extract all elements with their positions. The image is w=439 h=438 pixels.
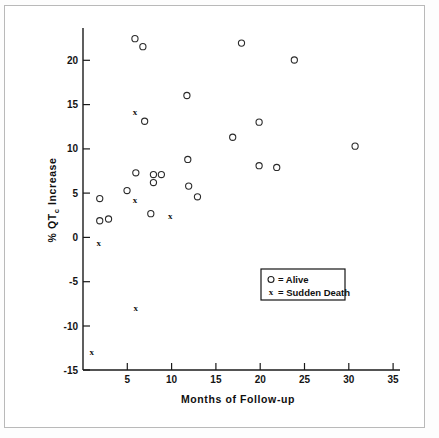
y-tick-label-minus10: -10 <box>64 321 79 332</box>
x-axis-title: Months of Follow-up <box>181 393 295 405</box>
data-point-sudden-death: x <box>90 347 95 357</box>
y-tick-label-minus5: -5 <box>69 276 78 287</box>
data-point-alive <box>352 143 358 149</box>
figure-root: 20 15 10 5 0 -5 -10 -15 5 10 15 20 25 30 <box>0 0 439 438</box>
data-point-alive <box>256 163 262 169</box>
x-tick-label-10: 10 <box>166 374 178 385</box>
y-axis-title-tail: Increase <box>46 158 58 209</box>
y-tick-label-5: 5 <box>72 188 78 199</box>
x-axis-tick-labels: 5 10 15 20 25 30 35 <box>125 374 400 385</box>
data-point-alive <box>97 218 103 224</box>
data-point-alive <box>186 183 192 189</box>
data-point-alive <box>274 164 280 170</box>
data-points-layer: xxxxxx <box>90 36 359 358</box>
data-point-alive <box>148 211 154 217</box>
data-point-sudden-death: x <box>134 303 139 313</box>
scatter-plot: 20 15 10 5 0 -5 -10 -15 5 10 15 20 25 30 <box>0 0 439 438</box>
data-point-sudden-death: x <box>97 238 102 248</box>
y-tick-label-10: 10 <box>67 143 79 154</box>
data-point-alive <box>140 44 146 50</box>
legend-label-sudden-death: = Sudden Death <box>278 287 350 298</box>
y-tick-label-15: 15 <box>67 99 79 110</box>
data-point-alive <box>142 118 148 124</box>
data-point-alive <box>124 187 130 193</box>
x-tick-label-20: 20 <box>255 374 267 385</box>
data-point-alive <box>230 134 236 140</box>
data-point-sudden-death: x <box>168 211 173 221</box>
data-point-sudden-death: x <box>133 107 138 117</box>
data-point-alive <box>194 194 200 200</box>
legend-label-alive: = Alive <box>278 274 309 285</box>
y-tick-label-minus15: -15 <box>64 365 79 376</box>
x-tick-label-30: 30 <box>343 374 355 385</box>
y-axis-ticks <box>83 60 90 370</box>
data-point-alive <box>158 171 164 177</box>
y-tick-label-20: 20 <box>67 55 79 66</box>
data-point-alive <box>105 216 111 222</box>
data-point-alive <box>238 40 244 46</box>
x-tick-label-35: 35 <box>388 374 400 385</box>
x-tick-label-15: 15 <box>210 374 222 385</box>
data-point-alive <box>185 156 191 162</box>
data-point-alive <box>184 92 190 98</box>
legend[interactable]: = Alive x = Sudden Death <box>261 269 350 300</box>
y-tick-label-0: 0 <box>72 232 78 243</box>
data-point-alive <box>132 36 138 42</box>
y-axis-tick-labels: 20 15 10 5 0 -5 -10 -15 <box>64 55 79 376</box>
y-axis-title: % QTc Increase <box>46 158 61 243</box>
svg-text:% QTc Increase: % QTc Increase <box>46 158 61 243</box>
data-point-alive <box>133 170 139 176</box>
data-point-alive <box>150 171 156 177</box>
x-tick-label-25: 25 <box>299 374 311 385</box>
x-axis-ticks <box>127 363 393 370</box>
data-point-alive <box>97 195 103 201</box>
y-axis-title-main: % QT <box>46 213 58 242</box>
x-tick-label-5: 5 <box>125 374 131 385</box>
legend-x-icon: x <box>269 287 274 297</box>
data-point-sudden-death: x <box>133 195 138 205</box>
data-point-alive <box>291 57 297 63</box>
data-point-alive <box>256 119 262 125</box>
data-point-alive <box>150 179 156 185</box>
